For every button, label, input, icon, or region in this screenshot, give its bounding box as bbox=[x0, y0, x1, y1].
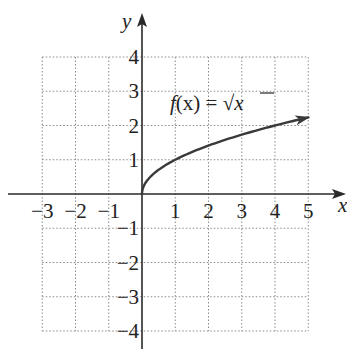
x-tick-label: −2 bbox=[64, 199, 86, 223]
x-axis-label: x bbox=[337, 193, 347, 217]
x-tick-label: 3 bbox=[237, 199, 248, 223]
x-tick-label: 1 bbox=[170, 199, 181, 223]
function-label: f(x) = √x bbox=[170, 91, 244, 115]
y-tick-label: −2 bbox=[117, 251, 139, 275]
y-tick-label: 1 bbox=[129, 148, 140, 172]
sqrt-function-graph: −3−2−112345−4−3−2−11234 x y f(x) = √x bbox=[0, 0, 347, 349]
y-tick-label: 4 bbox=[129, 45, 140, 69]
y-tick-label: 2 bbox=[129, 114, 140, 138]
x-tick-label: 2 bbox=[203, 199, 214, 223]
y-tick-label: −1 bbox=[117, 216, 139, 240]
sqrt-curve bbox=[142, 117, 308, 194]
y-tick-label: −4 bbox=[117, 319, 140, 343]
x-tick-label: −3 bbox=[31, 199, 53, 223]
radicand: x bbox=[233, 91, 244, 115]
axes bbox=[8, 13, 346, 349]
x-tick-label: 5 bbox=[303, 199, 314, 223]
y-axis-label: y bbox=[120, 9, 132, 33]
y-tick-label: −3 bbox=[117, 285, 139, 309]
y-tick-label: 3 bbox=[129, 79, 140, 103]
function-args: (x) = bbox=[176, 91, 223, 115]
radical-sign: √ bbox=[223, 91, 235, 115]
x-tick-label: 4 bbox=[270, 199, 281, 223]
